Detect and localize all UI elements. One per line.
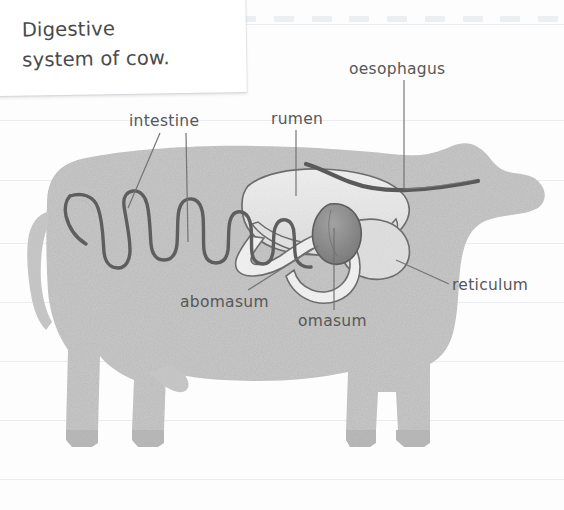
label-intestine: intestine: [129, 112, 199, 130]
label-reticulum: reticulum: [452, 276, 528, 294]
page-title: Digestive system of cow.: [22, 12, 233, 75]
label-oesophagus: oesophagus: [349, 60, 445, 78]
notebook-page: Digestive system of cow. intestine rumen…: [0, 0, 564, 510]
title-note-card: Digestive system of cow.: [0, 0, 247, 96]
label-rumen: rumen: [271, 110, 323, 128]
label-omasum: omasum: [298, 312, 367, 330]
label-abomasum: abomasum: [180, 293, 269, 311]
